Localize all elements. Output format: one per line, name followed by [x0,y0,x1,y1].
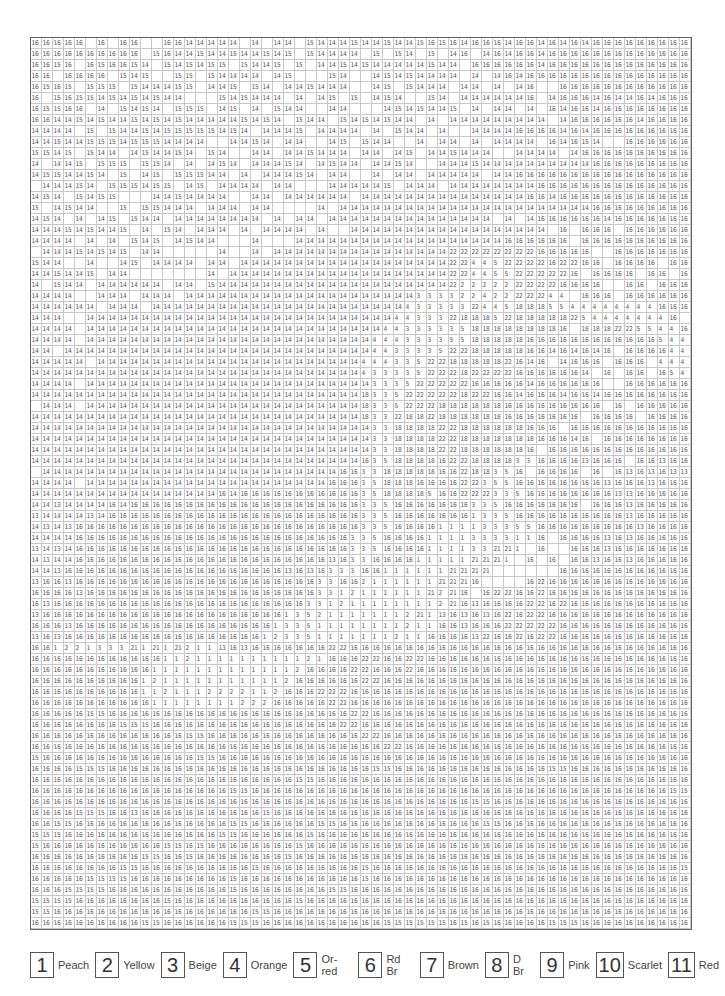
grid-cell: 13 [240,643,251,654]
grid-cell: 13 [669,467,680,478]
grid-cell: 14 [328,313,339,324]
grid-cell [97,236,108,247]
grid-cell: 21 [416,610,427,621]
grid-cell: 15 [218,60,229,71]
grid-cell: 14 [438,93,449,104]
grid-cell: 16 [658,742,669,753]
grid-cell: 14 [460,38,471,49]
grid-cell: 16 [614,181,625,192]
grid-cell: 16 [240,863,251,874]
grid-cell [306,93,317,104]
grid-cell: 16 [317,676,328,687]
grid-cell: 16 [185,896,196,907]
grid-cell: 14 [218,390,229,401]
grid-cell: 16 [548,60,559,71]
grid-cell: 22 [427,401,438,412]
grid-cell: 16 [284,577,295,588]
grid-cell: 14 [218,170,229,181]
grid-cell: 16 [163,874,174,885]
grid-cell: 16 [262,786,273,797]
grid-cell: 14 [460,225,471,236]
grid-cell: 16 [449,764,460,775]
grid-cell: 14 [537,115,548,126]
grid-cell: 16 [284,907,295,918]
grid-cell: 16 [152,764,163,775]
grid-cell: 3 [449,291,460,302]
grid-cell [526,566,537,577]
grid-cell: 1 [262,687,273,698]
grid-cell: 14 [339,148,350,159]
grid-cell: 16 [471,841,482,852]
grid-cell: 14 [53,412,64,423]
grid-cell: 16 [262,522,273,533]
grid-cell: 3 [372,456,383,467]
grid-cell: 16 [570,533,581,544]
grid-cell: 14 [196,324,207,335]
grid-cell: 16 [625,82,636,93]
grid-cell: 16 [636,709,647,720]
grid-cell: 22 [328,643,339,654]
grid-cell: 14 [174,93,185,104]
grid-cell: 18 [383,467,394,478]
grid-cell: 14 [262,170,273,181]
grid-cell: 16 [152,786,163,797]
grid-cell: 16 [504,687,515,698]
grid-cell: 22 [449,247,460,258]
grid-cell: 16 [119,60,130,71]
grid-cell: 16 [372,852,383,863]
grid-cell [152,225,163,236]
grid-cell: 18 [460,423,471,434]
grid-cell: 14 [405,236,416,247]
grid-cell: 14 [108,225,119,236]
grid-cell: 16 [405,808,416,819]
grid-cell: 16 [97,566,108,577]
grid-cell: 14 [53,181,64,192]
grid-cell: 14 [240,269,251,280]
grid-cell: 16 [328,775,339,786]
grid-cell: 16 [449,720,460,731]
grid-cell: 14 [328,60,339,71]
grid-cell [174,291,185,302]
grid-cell: 14 [119,291,130,302]
grid-cell: 14 [240,214,251,225]
grid-cell: 16 [295,588,306,599]
grid-cell: 16 [680,49,691,60]
grid-cell: 16 [515,126,526,137]
grid-cell: 16 [581,764,592,775]
grid-cell: 16 [229,588,240,599]
grid-cell: 18 [460,412,471,423]
grid-cell: 14 [141,357,152,368]
grid-cell: 16 [548,775,559,786]
grid-cell: 16 [141,753,152,764]
grid-cell: 13 [31,610,42,621]
grid-cell: 14 [240,478,251,489]
grid-cell: 16 [669,412,680,423]
grid-cell: 14 [449,71,460,82]
grid-cell: 3 [394,368,405,379]
grid-cell: 16 [75,533,86,544]
grid-cell: 16 [196,566,207,577]
grid-cell [537,104,548,115]
grid-cell: 14 [306,269,317,280]
grid-cell: 16 [647,786,658,797]
grid-cell: 14 [240,379,251,390]
grid-cell: 14 [218,467,229,478]
grid-cell: 16 [636,368,647,379]
grid-cell: 14 [515,225,526,236]
grid-cell: 16 [614,753,625,764]
grid-cell: 14 [317,302,328,313]
grid-cell: 3 [295,632,306,643]
grid-cell: 1 [328,599,339,610]
grid-cell: 18 [460,401,471,412]
grid-cell: 14 [317,368,328,379]
grid-cell: 14 [240,445,251,456]
grid-cell: 16 [548,654,559,665]
grid-cell [163,71,174,82]
grid-cell: 14 [339,280,350,291]
grid-cell: 14 [97,225,108,236]
grid-cell: 16 [295,489,306,500]
grid-cell: 16 [64,599,75,610]
grid-cell: 13 [482,610,493,621]
grid-cell: 16 [108,731,119,742]
grid-cell: 14 [339,49,350,60]
